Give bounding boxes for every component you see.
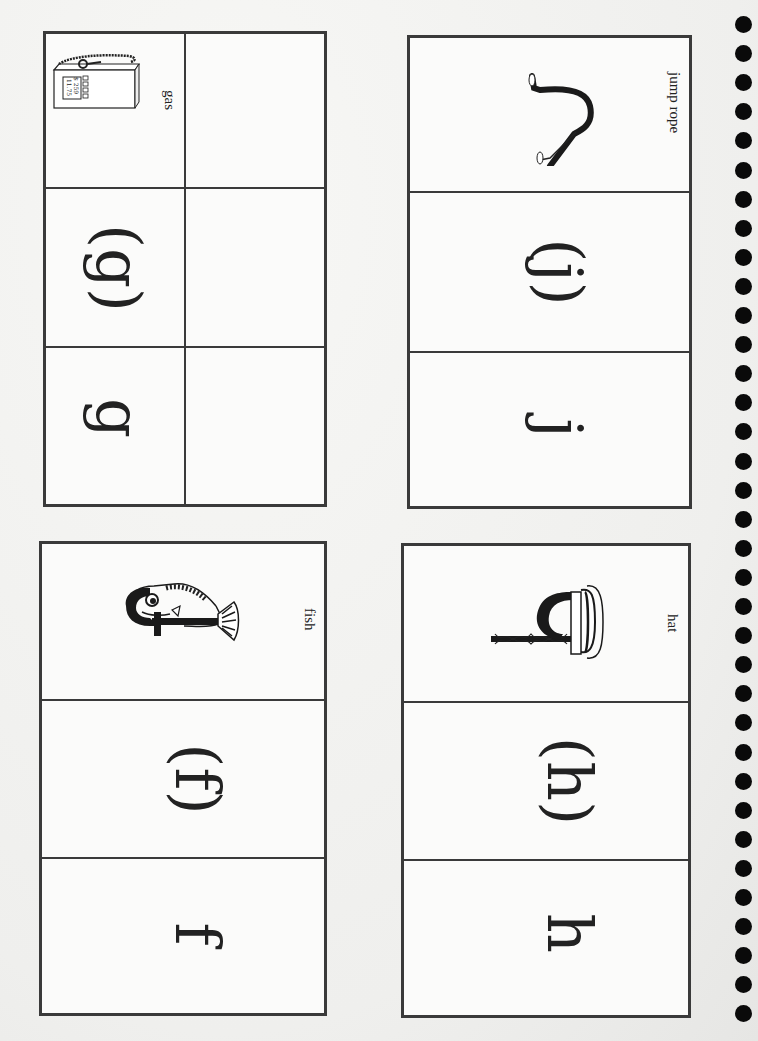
letter-in-parens: (f) — [166, 743, 228, 814]
binding-hole — [735, 220, 752, 237]
fish-icon — [114, 574, 244, 654]
letter-in-parens: (g) — [87, 223, 149, 311]
binding-hole — [735, 831, 752, 848]
letter-cell: h — [404, 861, 688, 1015]
binding-hole — [735, 162, 752, 179]
binding-hole — [735, 889, 752, 906]
picture-word-label: gas — [161, 90, 178, 110]
binding-hole — [735, 860, 752, 877]
blank-cell — [186, 34, 324, 187]
binding-hole — [735, 336, 752, 353]
binding-hole — [735, 278, 752, 295]
letter-card-h: hat (h) h — [401, 543, 691, 1018]
letter: j — [529, 418, 591, 437]
picture-cell: fish — [42, 544, 324, 699]
binding-hole — [735, 773, 752, 790]
binding-hole — [735, 744, 752, 761]
binding-hole — [735, 540, 752, 557]
picture-cell: jump rope — [410, 38, 689, 191]
letter-card-j: jump rope (j) j — [407, 35, 692, 509]
picture-word-label: hat — [664, 614, 681, 632]
binding-hole — [735, 482, 752, 499]
letter-in-parens-cell: (h) — [404, 703, 688, 859]
binding-hole — [735, 802, 752, 819]
letter-cell: j — [410, 353, 689, 506]
letter-card-g: $ 259 11.75 gas (g) g — [43, 31, 327, 507]
binding-hole — [735, 453, 752, 470]
binding-hole — [735, 627, 752, 644]
picture-word-label: fish — [301, 608, 318, 631]
letter-in-parens-cell: (j) — [410, 193, 689, 351]
letter: f — [166, 923, 228, 946]
binding-hole — [735, 918, 752, 935]
gas-pump-icon: $ 259 11.75 — [51, 50, 141, 110]
binding-hole — [735, 249, 752, 266]
letter-in-parens-cell: (g) — [46, 189, 184, 346]
jump-rope-icon — [520, 66, 610, 166]
letter-in-parens: (h) — [538, 737, 600, 825]
svg-text:$ 259: $ 259 — [73, 77, 80, 94]
binding-hole — [735, 598, 752, 615]
letter: h — [538, 913, 600, 953]
picture-cell: hat — [404, 546, 688, 701]
binding-hole — [735, 16, 752, 33]
picture-cell: $ 259 11.75 gas — [46, 34, 184, 187]
binding-hole — [735, 569, 752, 586]
letter-card-f: fish (f) f — [39, 541, 327, 1016]
letter-cell: g — [46, 348, 184, 504]
hat-icon — [489, 582, 609, 672]
binding-hole — [735, 191, 752, 208]
letter: g — [87, 398, 149, 438]
letter-in-parens: (j) — [529, 238, 591, 306]
binding-hole — [735, 45, 752, 62]
svg-text:11.75: 11.75 — [66, 79, 73, 96]
binding-hole — [735, 511, 752, 528]
binding-hole — [735, 307, 752, 324]
letter-cell: f — [42, 859, 324, 1013]
blank-cell — [186, 189, 324, 346]
picture-word-label: jump rope — [666, 72, 683, 133]
letter-in-parens-cell: (f) — [42, 701, 324, 857]
blank-cell — [186, 348, 324, 504]
